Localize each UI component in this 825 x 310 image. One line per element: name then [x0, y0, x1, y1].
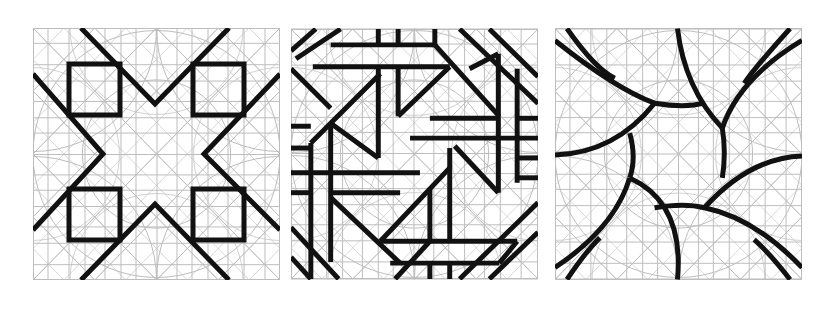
pinwheel-diagram: [291, 28, 538, 280]
panel-pinwheel: pinwheel interlaced strapwork: [291, 28, 538, 280]
curved-rosette-diagram: [555, 28, 802, 280]
star-squares-diagram: [33, 28, 280, 280]
panel-curved-rosette: curvilinear octagon rosette: [555, 28, 802, 280]
panel-star-squares: eight-point star with corner squares: [33, 28, 280, 280]
